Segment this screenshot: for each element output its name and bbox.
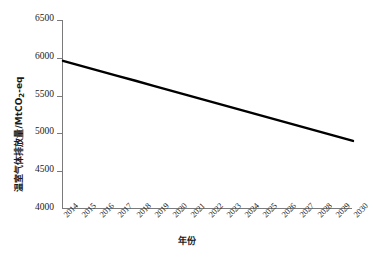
chart-figure: 温室气体排放量/MtCO2-eq 40004500500055006000650… (0, 0, 373, 268)
y-axis-title-subscript: 2 (18, 93, 26, 98)
y-axis-title-main: 温室气体排放量/MtCO (14, 98, 24, 192)
y-axis-tick-label: 5000 (35, 126, 54, 136)
y-axis-title-tail: -eq (14, 77, 24, 93)
plot-area (62, 20, 352, 209)
y-axis-title: 温室气体排放量/MtCO2-eq (14, 69, 29, 199)
x-axis-tick-label: 2030 (352, 202, 370, 220)
x-axis-title: 年份 (0, 236, 373, 247)
series-polyline (63, 61, 353, 141)
y-axis-tick-label: 4500 (35, 164, 54, 174)
series-line-greenhouse-gas-emissions (63, 20, 353, 209)
y-axis-tick-label: 4000 (35, 202, 54, 212)
y-axis-tick-label: 6500 (35, 13, 54, 23)
y-axis-tick-label: 5500 (35, 89, 54, 99)
y-axis-tick-label: 6000 (35, 51, 54, 61)
